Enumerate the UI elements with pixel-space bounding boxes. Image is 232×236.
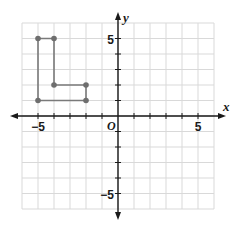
y-tick-label-5: 5: [107, 33, 114, 47]
vertex-point: [83, 98, 89, 104]
y-axis-down-arrow-icon: [115, 212, 121, 220]
y-axis-label: y: [121, 10, 129, 25]
axes: [10, 12, 226, 220]
y-axis-up-arrow-icon: [115, 12, 121, 20]
vertex-point: [83, 82, 89, 88]
y-tick-label-neg5: −5: [100, 188, 114, 202]
origin-label: O: [107, 119, 116, 133]
x-tick-label-neg5: −5: [31, 120, 45, 134]
vertex-point: [51, 82, 57, 88]
x-axis-left-arrow-icon: [10, 113, 18, 119]
coordinate-plane: x y O −5 5 5 −5: [0, 0, 232, 236]
vertex-point: [35, 98, 41, 104]
x-tick-label-5: 5: [195, 120, 202, 134]
vertex-point: [35, 36, 41, 42]
x-axis-label: x: [222, 99, 230, 114]
vertex-point: [51, 36, 57, 42]
